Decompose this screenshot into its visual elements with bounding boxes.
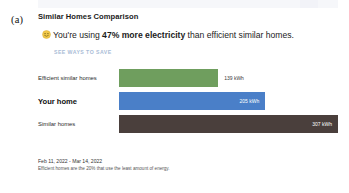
bar-value-your-home: 205 kWh <box>240 98 266 104</box>
bar-your-home: 205 kWh <box>119 92 265 110</box>
bar-value-similar-homes: 307 kWh <box>312 121 338 127</box>
card-footer: Feb 11, 2022 - Mar 14, 2022 Efficient ho… <box>38 158 338 172</box>
headline-row: You're using 47% more electricity than e… <box>38 30 338 40</box>
headline-text: You're using 47% more electricity than e… <box>53 30 294 40</box>
bar-track: 205 kWh <box>119 90 338 112</box>
bar-value-efficient-similar-homes: 139 kWh <box>224 75 244 81</box>
bar-row: Your home 205 kWh <box>38 90 338 112</box>
figure-label: (a) <box>11 14 23 25</box>
bar-efficient-similar-homes <box>119 69 218 87</box>
comparison-bar-chart: Efficient similar homes 139 kWh Your hom… <box>38 67 338 136</box>
headline-prefix: You're using <box>53 30 102 40</box>
date-range: Feb 11, 2022 - Mar 14, 2022 <box>38 158 338 165</box>
headline-suffix: than efficient similar homes. <box>185 30 294 40</box>
bar-label-similar-homes: Similar homes <box>38 121 119 127</box>
headline-emphasis: 47% more electricity <box>102 30 185 40</box>
bar-track: 139 kWh <box>119 67 338 89</box>
bar-label-efficient-similar-homes: Efficient similar homes <box>38 75 119 81</box>
bar-row: Similar homes 307 kWh <box>38 113 338 135</box>
bar-similar-homes: 307 kWh <box>119 115 338 133</box>
bar-track: 307 kWh <box>119 113 338 135</box>
scan-artifact-top <box>38 0 338 8</box>
bar-row: Efficient similar homes 139 kWh <box>38 67 338 89</box>
see-ways-to-save-link[interactable]: SEE WAYS TO SAVE <box>38 49 338 55</box>
card-title: Similar Homes Comparison <box>38 12 338 21</box>
bar-label-your-home: Your home <box>38 97 119 106</box>
smiley-face-emoji <box>42 30 53 39</box>
footnote: Efficient homes are the 20% that use the… <box>38 165 338 172</box>
similar-homes-comparison-card: Similar Homes Comparison You're using 47… <box>38 8 338 186</box>
